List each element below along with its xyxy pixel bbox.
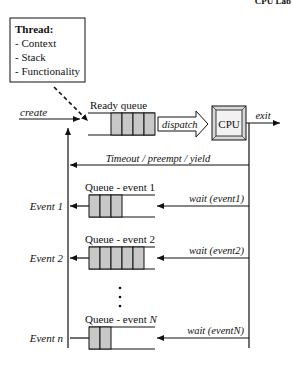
cpu-block: CPU [212, 106, 246, 140]
event-queues: Queue - event 1Event 1wait (event1)Queue… [29, 181, 249, 349]
ready-queue-slots [111, 113, 155, 135]
thread-scheduling-diagram: CPU Lab Thread: - Context - Stack - Func… [0, 0, 293, 371]
cpu-label: CPU [218, 118, 239, 130]
queue-slot [133, 113, 144, 135]
event-label: Event 1 [29, 200, 63, 212]
header-fragment: CPU Lab [255, 0, 291, 6]
queue-slot [111, 113, 122, 135]
timeout-label: Timeout / preempt / yield [106, 153, 211, 164]
thread-pointer-arrow [54, 87, 88, 121]
dispatch-label: dispatch [162, 119, 198, 130]
event-queue-label: Queue - event N [85, 313, 157, 325]
queue-slot [111, 247, 122, 269]
queue-slot [111, 195, 122, 217]
queue-slot [133, 247, 144, 269]
thread-info-box: Thread: - Context - Stack - Functionalit… [10, 18, 85, 82]
event-label: Event 2 [29, 252, 64, 264]
wait-label: wait (event2) [189, 245, 245, 257]
thread-box-title: Thread: [15, 23, 53, 35]
ready-queue-label: Ready queue [90, 99, 147, 111]
queue-slot [144, 113, 155, 135]
queue-slot [122, 247, 133, 269]
event-queue: Queue - event 1Event 1wait (event1) [29, 181, 249, 217]
wait-label: wait (event1) [189, 193, 245, 205]
wait-label: wait (eventN) [187, 325, 244, 337]
event-queue: Queue - event NEvent nwait (eventN) [29, 313, 249, 349]
thread-box-item: - Functionality [15, 65, 81, 77]
more-queues-ellipsis [119, 287, 122, 308]
event-queue-label: Queue - event 2 [85, 233, 155, 245]
thread-box-item: - Context [15, 37, 56, 49]
queue-slot [100, 247, 111, 269]
queue-slot [89, 195, 100, 217]
queue-slot [100, 327, 111, 349]
queue-slot [100, 195, 111, 217]
event-queue-label: Queue - event 1 [85, 181, 155, 193]
exit-label: exit [255, 110, 271, 121]
queue-slot [122, 113, 133, 135]
thread-box-item: - Stack [15, 51, 46, 63]
create-label: create [20, 106, 47, 118]
event-queue: Queue - event 2Event 2wait (event2) [29, 233, 249, 269]
event-label: Event n [29, 332, 64, 344]
queue-slot [89, 327, 100, 349]
queue-slot [89, 247, 100, 269]
